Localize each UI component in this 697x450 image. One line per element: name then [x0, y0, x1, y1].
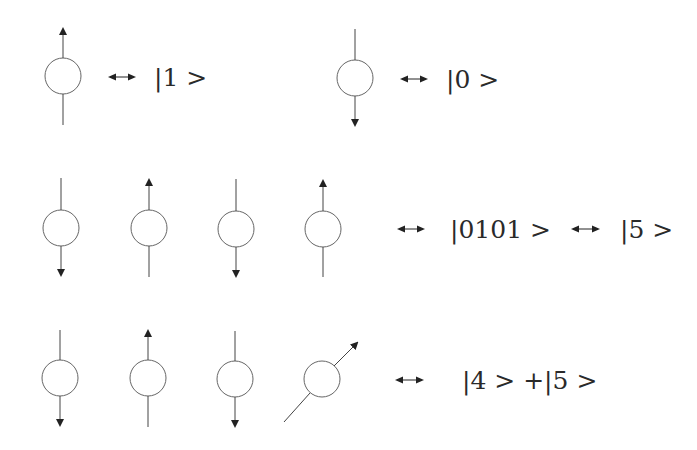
- ket-label-1: |1 >: [154, 63, 207, 93]
- spin-down-qubit: [43, 178, 79, 275]
- ket-label-4-plus-5: |4 > +|5 >: [462, 366, 597, 396]
- spin-up-qubit: [45, 29, 81, 125]
- equivalence-arrow-icon: [400, 76, 428, 83]
- spin-up-qubit: [305, 181, 341, 277]
- ket-label-0101: |0101 >: [450, 215, 551, 245]
- equivalence-arrow-icon: [397, 226, 425, 233]
- spin-up-qubit: [130, 331, 166, 427]
- spin-down-qubit: [337, 29, 373, 125]
- ket-label-0: |0 >: [446, 65, 499, 95]
- ket-label-5: |5 >: [620, 215, 673, 245]
- qubit-spin-diagram: |1 > |0 > |0101 >: [0, 0, 697, 450]
- equivalence-arrow-icon: [395, 377, 424, 384]
- equivalence-arrow-icon: [108, 74, 136, 81]
- spin-up-qubit: [131, 180, 167, 277]
- spin-down-qubit: [42, 330, 78, 425]
- spin-down-qubit: [218, 179, 254, 276]
- equivalence-arrow-icon: [571, 226, 600, 233]
- spin-superposition-qubit: [284, 343, 357, 422]
- spin-down-qubit: [217, 331, 253, 426]
